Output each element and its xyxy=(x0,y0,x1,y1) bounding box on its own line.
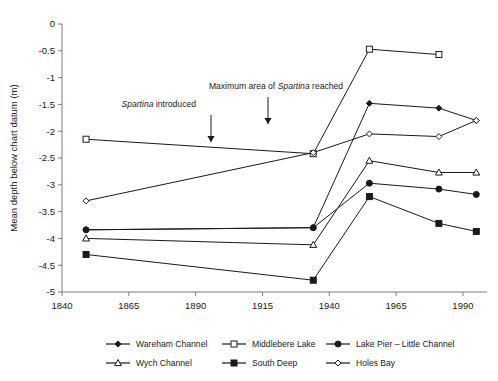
data-point-filled-square xyxy=(366,194,372,200)
data-point-filled-square xyxy=(231,360,237,366)
y-tick-label: 0 xyxy=(50,18,55,29)
data-point-open-square xyxy=(231,341,237,347)
x-tick-label: 1965 xyxy=(386,300,407,311)
data-point-open-triangle xyxy=(366,157,373,163)
data-point-filled-circle xyxy=(310,225,316,231)
legend-label: Middlebere Lake xyxy=(252,339,316,349)
chart-annotation-label: Spartina introduced xyxy=(121,99,196,109)
annotation-arrow xyxy=(264,97,271,124)
series-3 xyxy=(83,157,480,247)
y-tick-label: -3.5 xyxy=(39,206,55,217)
x-tick-label: 1915 xyxy=(252,300,273,311)
legend-item-1[interactable]: Middlebere Lake xyxy=(222,339,316,349)
y-axis-title: Mean depth below chart datum (m) xyxy=(8,84,19,231)
series-line xyxy=(86,161,476,245)
series-5 xyxy=(83,117,479,203)
annotation-layer: Spartina introducedMaximum area of Spart… xyxy=(121,81,343,142)
data-point-filled-square xyxy=(436,220,442,226)
legend-item-3[interactable]: Wych Channel xyxy=(106,358,192,368)
legend-label: Wych Channel xyxy=(136,358,192,368)
data-point-filled-square xyxy=(473,228,479,234)
data-point-filled-square xyxy=(310,277,316,283)
legend-item-5[interactable]: Holes Bay xyxy=(326,358,396,368)
data-point-open-diamond xyxy=(366,131,372,137)
x-tick-label: 1865 xyxy=(118,300,139,311)
legend-item-0[interactable]: Wareham Channel xyxy=(106,339,207,349)
x-tick-label: 1840 xyxy=(51,300,72,311)
data-point-filled-diamond xyxy=(115,341,121,347)
data-point-open-diamond xyxy=(335,360,341,366)
y-tick-label: -4 xyxy=(47,233,55,244)
axes-layer: 0-0.5-1-1.5-2-2.5-3-3.5-4-4.5-5184018651… xyxy=(8,18,487,311)
y-tick-label: -4.5 xyxy=(39,260,55,271)
data-point-open-diamond xyxy=(436,134,442,140)
chart-annotation-label: Maximum area of Spartina reached xyxy=(209,81,343,91)
series-line xyxy=(86,197,476,281)
data-point-filled-circle xyxy=(335,341,341,347)
legend-label: Lake Pier – Little Channel xyxy=(356,339,455,349)
y-tick-label: -1.5 xyxy=(39,99,55,110)
y-tick-label: -5 xyxy=(47,286,55,297)
legend-item-4[interactable]: South Deep xyxy=(222,358,298,368)
series-line xyxy=(86,103,476,229)
series-4 xyxy=(83,194,479,284)
data-point-filled-circle xyxy=(436,186,442,192)
x-tick-label: 1890 xyxy=(185,300,206,311)
chart-canvas: 0-0.5-1-1.5-2-2.5-3-3.5-4-4.5-5184018651… xyxy=(0,0,498,381)
series-line xyxy=(86,183,476,230)
annotation-arrow xyxy=(207,115,214,142)
data-point-filled-square xyxy=(83,251,89,257)
series-0 xyxy=(83,100,479,232)
series-2 xyxy=(83,180,479,233)
legend-layer: Wareham ChannelMiddlebere LakeLake Pier … xyxy=(106,339,455,368)
data-point-open-diamond xyxy=(83,198,89,204)
x-tick-label: 1940 xyxy=(319,300,340,311)
data-point-filled-circle xyxy=(473,191,479,197)
chart-page: 0-0.5-1-1.5-2-2.5-3-3.5-4-4.5-5184018651… xyxy=(0,0,498,381)
y-tick-label: -1 xyxy=(47,72,55,83)
legend-label: Wareham Channel xyxy=(136,339,207,349)
x-tick-label: 1990 xyxy=(452,300,473,311)
data-point-open-square xyxy=(83,136,89,142)
data-point-open-square xyxy=(366,46,372,52)
legend-label: Holes Bay xyxy=(356,358,396,368)
data-point-open-diamond xyxy=(473,117,479,123)
legend-label: South Deep xyxy=(252,358,298,368)
series-line xyxy=(86,120,476,200)
data-point-filled-diamond xyxy=(366,100,372,106)
y-tick-label: -2.5 xyxy=(39,152,55,163)
data-point-open-triangle xyxy=(83,235,90,241)
line-chart: 0-0.5-1-1.5-2-2.5-3-3.5-4-4.5-5184018651… xyxy=(0,0,498,381)
y-tick-label: -3 xyxy=(47,179,55,190)
legend-item-2[interactable]: Lake Pier – Little Channel xyxy=(326,339,455,349)
data-point-filled-circle xyxy=(83,227,89,233)
y-tick-label: -2 xyxy=(47,126,55,137)
y-tick-label: -0.5 xyxy=(39,45,55,56)
data-point-filled-circle xyxy=(366,180,372,186)
data-point-open-square xyxy=(436,52,442,58)
data-point-filled-diamond xyxy=(436,105,442,111)
